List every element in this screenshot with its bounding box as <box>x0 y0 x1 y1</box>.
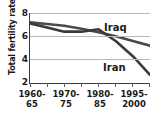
x-tick-7 <box>149 83 150 87</box>
line-series-iraq <box>30 22 150 45</box>
y-tick-2: 2 <box>16 78 28 87</box>
y-tick-6: 6 <box>16 32 28 41</box>
series-label-iran: Iran <box>103 62 126 73</box>
gridline-8 <box>30 13 150 14</box>
x-tick-2 <box>64 83 65 87</box>
series-label-iraq: Iraq <box>104 22 127 33</box>
gridline-6 <box>30 36 150 37</box>
plot-area <box>30 13 150 83</box>
fertility-rate-line-chart: Total fertility rate 8 6 4 2 1960- 65 19… <box>0 0 153 116</box>
x-tick-6 <box>132 83 133 87</box>
y-tick-8: 8 <box>16 9 28 18</box>
y-tick-4: 4 <box>16 55 28 64</box>
series-lines <box>30 13 150 83</box>
line-series-iran <box>30 24 150 75</box>
x-tick-1 <box>47 83 48 87</box>
x-tick-3 <box>81 83 82 87</box>
gridline-4 <box>30 59 150 60</box>
x-tick-5 <box>115 83 116 87</box>
x-tick-4 <box>98 83 99 87</box>
x-label-1995-2000: 1995- 2000 <box>112 89 153 109</box>
x-tick-0 <box>30 83 31 87</box>
